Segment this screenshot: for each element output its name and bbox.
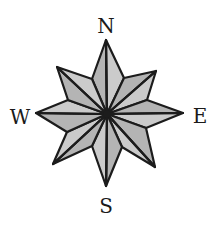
label-east: E (193, 104, 208, 128)
label-south: S (99, 194, 113, 218)
compass-rose: N S E W (0, 0, 222, 227)
label-north: N (97, 14, 115, 38)
compass-star (36, 40, 183, 186)
label-west: W (10, 105, 31, 129)
ray-e (107, 113, 183, 114)
ray-n (106, 40, 107, 114)
center-hub (104, 111, 111, 118)
ray-s (106, 114, 107, 186)
ray-w (36, 113, 107, 114)
